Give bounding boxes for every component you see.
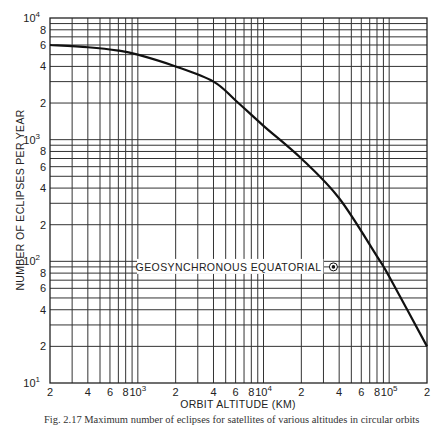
x-tick-label: 2 [424,386,430,398]
y-tick-label: 2 [40,340,46,352]
y-tick-label: 2 [40,219,46,231]
eclipse-curve [50,45,427,346]
y-tick-label: 8 [40,145,46,157]
x-tick-label: 2 [173,386,179,398]
y-tick-label: 6 [40,161,46,173]
x-axis-label: ORBIT ALTITUDE (KM) [180,398,296,410]
x-tick-label: 2 [298,386,304,398]
x-tick-label: 4 [85,386,91,398]
x-tick-label: 104 [255,384,272,398]
y-tick-label: 2 [40,97,46,109]
x-tick-label: 8 [123,386,129,398]
x-tick-label: 8 [248,386,254,398]
y-tick-label: 4 [40,182,46,194]
x-tick-label: 105 [381,384,398,398]
x-tick-label: 4 [336,386,342,398]
x-tick-label: 103 [129,384,146,398]
figure-caption: Fig. 2.17 Maximum number of eclipses for… [44,414,440,425]
x-tick-label: 2 [47,386,53,398]
geosynchronous-label: GEOSYNCHRONOUS EQUATORIAL [136,261,322,273]
eclipses-chart: 101246810224681032468104 246810324681042… [0,0,440,414]
y-tick-label: 101 [23,375,40,389]
x-tick-label: 8 [374,386,380,398]
x-tick-label: 6 [233,386,239,398]
x-tick-label: 6 [358,386,364,398]
geosynchronous-annotation: GEOSYNCHRONOUS EQUATORIAL [136,259,338,274]
y-tick-label: 8 [40,267,46,279]
y-tick-label: 4 [40,60,46,72]
y-tick-label: 8 [40,24,46,36]
y-tick-label: 4 [40,304,46,316]
y-tick-label: 6 [40,282,46,294]
x-tick-label: 6 [107,386,113,398]
x-tick-labels: 2468103246810424681052 [47,384,430,398]
grid-lines [50,18,427,383]
y-tick-label: 104 [23,10,40,24]
y-tick-label: 6 [40,39,46,51]
y-axis-label: NUMBER OF ECLIPSES PER YEAR [14,109,26,290]
plot-frame [50,18,427,383]
y-tick-labels: 101246810224681032468104 [23,10,46,389]
x-tick-label: 4 [210,386,216,398]
